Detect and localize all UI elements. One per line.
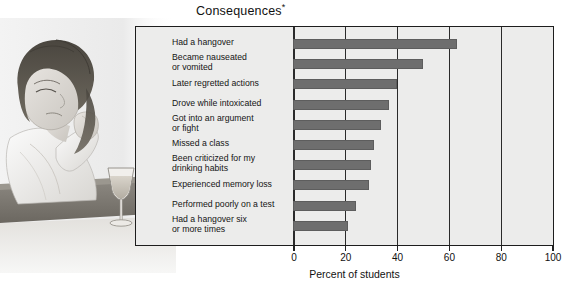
bar <box>293 100 389 110</box>
category-label: Got into an argument or fight <box>172 114 294 134</box>
gridline-80 <box>501 27 502 245</box>
chart-title-text: Consequences <box>196 4 282 18</box>
bar <box>293 160 371 170</box>
category-label: Later regretted actions <box>172 79 294 89</box>
bar <box>293 59 423 69</box>
x-tick-0 <box>293 246 294 251</box>
x-axis-title: Percent of students <box>0 268 563 280</box>
x-tick-label: 40 <box>392 252 403 263</box>
chart-title: Consequences* <box>196 2 286 18</box>
category-label: Became nauseated or vomited <box>172 53 294 73</box>
category-label: Drove while intoxicated <box>172 99 294 109</box>
x-tick-100 <box>552 246 553 251</box>
x-tick-label: 80 <box>496 252 507 263</box>
x-tick-40 <box>397 246 398 251</box>
category-label: Been criticized for my drinking habits <box>172 154 294 174</box>
category-label: Performed poorly on a test <box>172 200 294 210</box>
x-axis-title-text: Percent of students <box>309 268 399 280</box>
category-label: Missed a class <box>172 139 294 149</box>
bar <box>293 140 373 150</box>
x-tick-label: 0 <box>291 252 297 263</box>
x-tick-label: 20 <box>340 252 351 263</box>
x-tick-80 <box>501 246 502 251</box>
bar <box>293 79 397 89</box>
category-label: Had a hangover <box>172 38 294 48</box>
bar <box>293 120 381 130</box>
category-label: Had a hangover six or more times <box>172 215 294 235</box>
x-tick-label: 100 <box>545 252 562 263</box>
bar <box>293 201 355 211</box>
bar <box>293 221 347 231</box>
x-tick-20 <box>345 246 346 251</box>
category-label: Experienced memory loss <box>172 180 294 190</box>
bar <box>293 180 368 190</box>
x-tick-60 <box>449 246 450 251</box>
gridline-60 <box>449 27 450 245</box>
chart-title-footnote-marker: * <box>282 2 286 12</box>
x-tick-label: 60 <box>444 252 455 263</box>
bar <box>293 39 456 49</box>
